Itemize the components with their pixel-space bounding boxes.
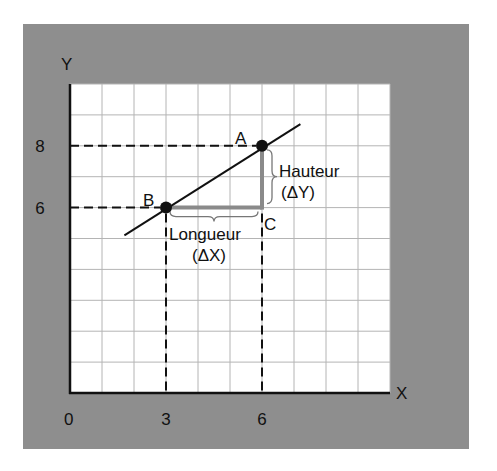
point-label-b: B	[143, 191, 154, 210]
point-b	[160, 202, 172, 214]
x-tick-label-6: 6	[257, 410, 266, 429]
y-axis-label: Y	[61, 55, 72, 74]
rise-sub-label: (ΔY)	[281, 183, 315, 202]
point-label-c: C	[264, 215, 276, 234]
slope-diagram: Y X 0 3 6 8 6 A B C Hauteur (ΔY) Longueu…	[0, 0, 497, 471]
y-tick-label-8: 8	[35, 137, 44, 156]
y-tick-label-6: 6	[35, 199, 44, 218]
origin-label: 0	[64, 410, 73, 429]
x-axis-label: X	[396, 384, 407, 403]
point-a	[256, 140, 268, 152]
run-label: Longueur	[169, 225, 241, 244]
point-label-a: A	[235, 129, 247, 148]
x-tick-label-3: 3	[161, 410, 170, 429]
rise-label: Hauteur	[279, 162, 340, 181]
run-sub-label: (ΔX)	[192, 246, 226, 265]
